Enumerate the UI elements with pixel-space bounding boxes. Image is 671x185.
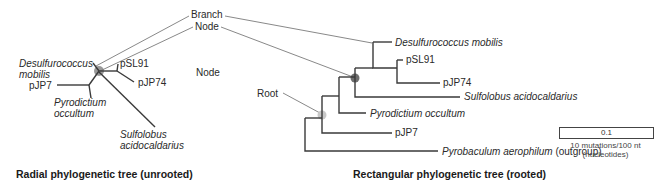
rect-taxon-pyrodictium: Pyrodictium occultum <box>370 108 465 119</box>
rect-taxon-pjp74: pJP74 <box>443 77 471 88</box>
branch-callout: Branch <box>191 9 223 20</box>
node-callout: Node <box>195 21 219 32</box>
radial-taxon-desulfurococcus-species: mobilis <box>19 69 50 80</box>
rect-taxon-psl91: pSL91 <box>406 54 435 65</box>
radial-taxon-pyrodictium: Pyrodictium <box>54 97 106 108</box>
radial-taxon-pjp74: pJP74 <box>138 77 166 88</box>
radial-taxon-pjp7: pJP7 <box>29 80 52 91</box>
radial-taxon-sulfolobus: Sulfolobus <box>120 129 167 140</box>
root-callout: Root <box>257 88 278 99</box>
rect-taxon-pyrobaculum: Pyrobaculum aerophilum <box>442 146 553 157</box>
rectangular-caption: Rectangular phylogenetic tree (rooted) <box>353 168 546 180</box>
rect-taxon-sulfolobus: Sulfolobus acidocaldarius <box>464 91 577 102</box>
scale-bar-sublabel: (nucleotides) <box>549 150 662 160</box>
rect-taxon-pjp7: pJP7 <box>395 127 418 138</box>
node-label: Node <box>196 67 220 78</box>
radial-taxon-desulfurococcus: Desulfurococcus <box>19 58 93 69</box>
scale-bar: 0.1 <box>559 127 654 139</box>
rect-taxon-desulfurococcus: Desulfurococcus mobilis <box>395 37 503 48</box>
radial-taxon-psl91: pSL91 <box>120 58 149 69</box>
radial-taxon-pyrodictium-species: occultum <box>54 108 94 119</box>
rectangular-tree <box>305 42 460 151</box>
radial-taxon-sulfolobus-species: acidocaldarius <box>120 140 184 151</box>
radial-caption: Radial phylogenetic tree (unrooted) <box>16 168 193 180</box>
